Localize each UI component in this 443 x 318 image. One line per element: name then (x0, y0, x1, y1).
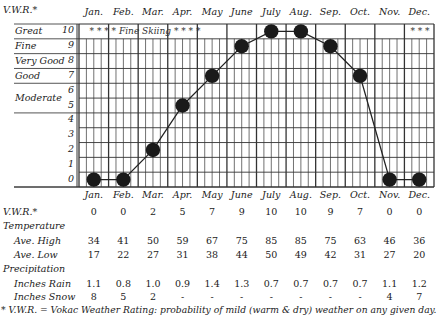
data-point-marker (323, 39, 337, 53)
table-cell: 0 (79, 206, 109, 217)
table-cell: 7 (197, 206, 227, 217)
table-cell: 85 (256, 235, 286, 246)
row-label: Inches Snow (14, 291, 75, 302)
y-tick-label: 8 (58, 54, 74, 65)
table-heading-precipitation: Precipitation (0, 263, 443, 277)
table-cell: 59 (168, 235, 198, 246)
y-tick-label: 4 (58, 113, 74, 124)
month-label: Dec. (399, 6, 439, 17)
table-cell: 1.0 (138, 278, 168, 289)
y-tick-label: 5 (58, 99, 74, 110)
table-cell: - (256, 291, 286, 302)
data-point-marker (353, 69, 367, 83)
table-cell: 0.7 (256, 278, 286, 289)
data-point-marker (235, 39, 249, 53)
table-cell: 27 (138, 249, 168, 260)
table-cell: 41 (108, 235, 138, 246)
table-cell: 2 (138, 291, 168, 302)
data-point-marker (382, 172, 396, 186)
data-point-marker (294, 24, 308, 38)
table-cell: 9 (227, 206, 257, 217)
y-tick-label: 2 (58, 143, 74, 154)
table-cell: 75 (315, 235, 345, 246)
section-heading: Precipitation (3, 263, 65, 274)
table-cell: 0.7 (315, 278, 345, 289)
table-row-inches-rain: Inches Rain 1.10.81.00.91.41.30.70.70.70… (0, 278, 443, 292)
rating-band-label: Great (15, 25, 42, 36)
y-tick-label: 10 (58, 24, 74, 35)
table-cell: 50 (256, 249, 286, 260)
table-cell: - (315, 291, 345, 302)
table-cell: 1.2 (404, 278, 434, 289)
table-cell: 44 (227, 249, 257, 260)
table-cell: 0.8 (108, 278, 138, 289)
table-cell: 7 (404, 291, 434, 302)
table-cell: - (197, 291, 227, 302)
row-label: Ave. Low (14, 249, 58, 260)
table-cell: - (286, 291, 316, 302)
data-point-marker (87, 172, 101, 186)
data-point-marker (116, 172, 130, 186)
table-cell: 5 (168, 206, 198, 217)
data-point-marker (146, 143, 160, 157)
table-cell: 1.1 (375, 278, 405, 289)
table-row-inches-snow: Inches Snow 852-------47 (0, 291, 443, 305)
table-cell: 46 (375, 235, 405, 246)
table-cell: 50 (138, 235, 168, 246)
y-tick-label: 7 (58, 69, 74, 80)
data-point-marker (205, 69, 219, 83)
table-cell: 0 (404, 206, 434, 217)
data-point-marker (175, 98, 189, 112)
table-heading-temperature: Temperature (0, 220, 443, 234)
fine-skiing-annotation: * * * * Fine Skiing * * * * (86, 26, 204, 36)
table-cell: 31 (168, 249, 198, 260)
table-cell: 2 (138, 206, 168, 217)
table-cell: 67 (197, 235, 227, 246)
table-cell: 75 (227, 235, 257, 246)
table-cell: 63 (345, 235, 375, 246)
data-point-marker (264, 24, 278, 38)
row-label: V.W.R.* (3, 206, 37, 217)
table-cell: 10 (286, 206, 316, 217)
vwr-axis-title: V.W.R.* (3, 4, 37, 15)
table-cell: 0 (108, 206, 138, 217)
table-cell: - (168, 291, 198, 302)
table-row-ave-high: Ave. High 344150596775858575634636 (0, 235, 443, 249)
table-cell: 31 (345, 249, 375, 260)
section-heading: Temperature (3, 220, 65, 231)
table-cell: 0.9 (168, 278, 198, 289)
table-row-ave-low: Ave. Low 172227313844504942312720 (0, 249, 443, 263)
table-cell: 38 (197, 249, 227, 260)
table-cell: 34 (79, 235, 109, 246)
rating-band-label: Good (15, 70, 40, 81)
table-cell: 36 (404, 235, 434, 246)
y-tick-label: 3 (58, 128, 74, 139)
table-cell: 4 (375, 291, 405, 302)
row-label: Inches Rain (14, 278, 71, 289)
row-label: Ave. High (14, 235, 61, 246)
table-cell: 22 (108, 249, 138, 260)
table-cell: 17 (79, 249, 109, 260)
table-cell: 7 (345, 206, 375, 217)
footnote: * V.W.R. = Vokac Weather Rating: probabi… (1, 304, 437, 315)
table-cell: - (345, 291, 375, 302)
rating-band-label: Moderate (15, 92, 62, 103)
table-cell: 0.7 (286, 278, 316, 289)
table-cell: 42 (315, 249, 345, 260)
table-cell: 27 (375, 249, 405, 260)
table-cell: 0.7 (345, 278, 375, 289)
table-cell: 1.1 (79, 278, 109, 289)
y-tick-label: 0 (58, 173, 74, 184)
data-point-marker (412, 172, 426, 186)
table-cell: 1.4 (197, 278, 227, 289)
table-cell: 10 (256, 206, 286, 217)
dec-skiing-annotation: * * * (405, 26, 435, 36)
table-cell: 20 (404, 249, 434, 260)
rating-band-label: Fine (15, 40, 36, 51)
y-tick-label: 1 (58, 158, 74, 169)
table-cell: 1.3 (227, 278, 257, 289)
table-cell: - (227, 291, 257, 302)
month-label: Dec. (399, 189, 439, 200)
table-cell: 0 (375, 206, 405, 217)
table-cell: 85 (286, 235, 316, 246)
